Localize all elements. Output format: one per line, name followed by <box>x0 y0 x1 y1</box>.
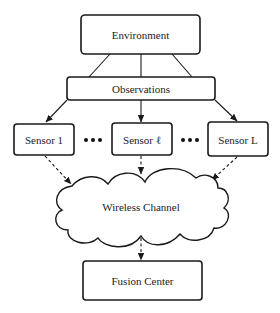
wireless-channel-label: Wireless Channel <box>102 201 179 213</box>
observations-node: Observations <box>67 77 215 100</box>
sensor-l-label: Sensor ℓ <box>123 134 161 146</box>
observation-sensor-arrows <box>46 100 237 122</box>
environment-label: Environment <box>112 29 169 41</box>
sensor-network-diagram: Environment Observations Sensor 1 Sensor… <box>0 0 280 313</box>
ellipsis-left-icon <box>84 138 102 142</box>
environment-observation-links <box>89 54 192 77</box>
ellipsis-right-icon <box>181 138 199 142</box>
sensor-L-node: Sensor L <box>208 122 268 156</box>
sensor-1-label: Sensor 1 <box>25 134 63 146</box>
sensor-L-label: Sensor L <box>218 134 258 146</box>
fusion-center-node: Fusion Center <box>83 261 202 300</box>
observations-label: Observations <box>112 83 170 95</box>
wireless-channel-cloud: Wireless Channel <box>56 169 229 247</box>
sensor-1-node: Sensor 1 <box>14 124 74 155</box>
fusion-center-label: Fusion Center <box>111 275 173 287</box>
environment-node: Environment <box>81 15 200 54</box>
sensor-l-node: Sensor ℓ <box>112 123 172 155</box>
